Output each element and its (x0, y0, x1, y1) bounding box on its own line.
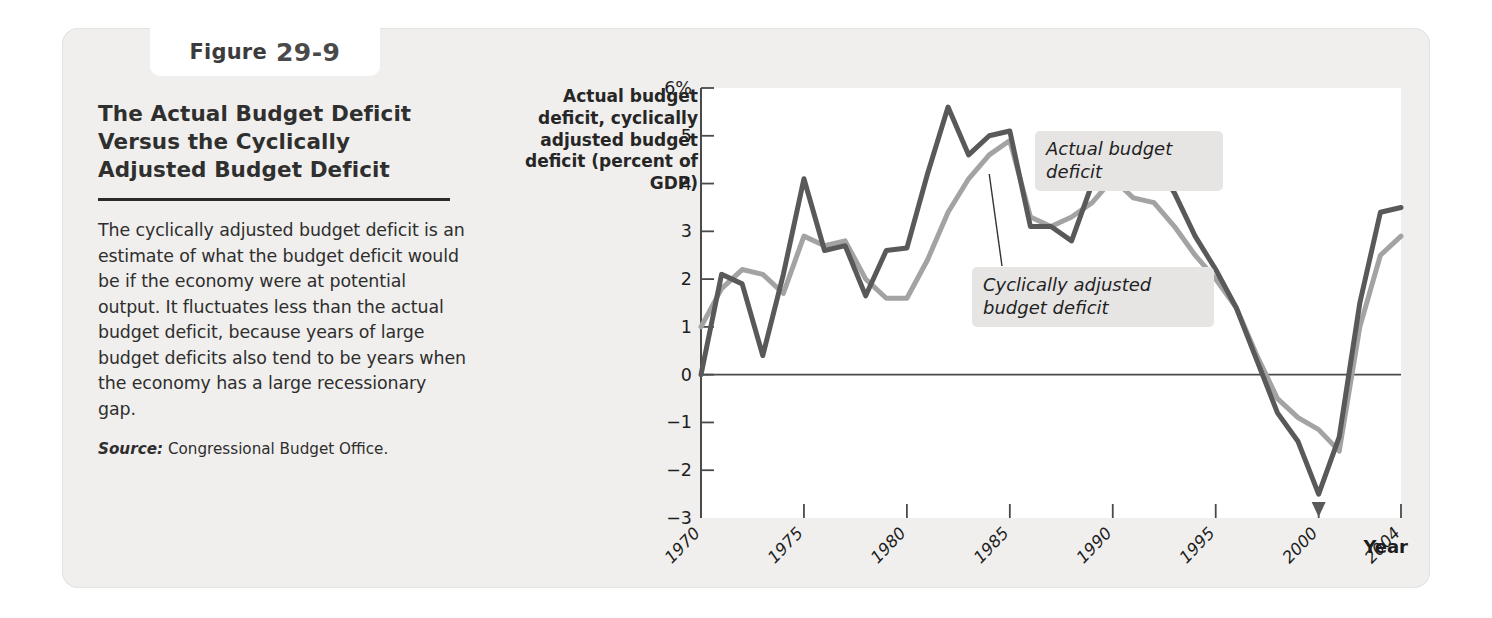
annotation-actual-budget-deficit: Actual budget deficit (1035, 131, 1223, 191)
figure-text-column: The Actual Budget Deficit Versus the Cyc… (98, 100, 466, 458)
chart-container: Actual budget deficit, cyclically adjust… (502, 28, 1430, 588)
y-tick-label: 2 (681, 269, 692, 289)
x-axis-label: Year (1363, 536, 1408, 557)
y-tick-label: 0 (681, 365, 692, 385)
x-tick-label: 2000 (1279, 524, 1322, 567)
source-text: Congressional Budget Office. (168, 440, 388, 458)
figure-card: Figure 29-9 The Actual Budget Deficit Ve… (62, 28, 1430, 588)
x-axis-ticks: 19701975198019851990199520002004 (661, 504, 1404, 567)
y-tick-label: −2 (666, 460, 692, 480)
x-tick-label: 1970 (661, 524, 704, 567)
figure-number: 29-9 (276, 38, 341, 67)
figure-title: The Actual Budget Deficit Versus the Cyc… (98, 100, 466, 184)
title-divider (98, 198, 450, 201)
source-label: Source: (98, 440, 163, 458)
y-tick-label: 5 (681, 126, 692, 146)
figure-caption: The cyclically adjusted budget deficit i… (98, 218, 466, 422)
axis-marker-2000 (1312, 502, 1326, 517)
x-tick-label: 1985 (970, 524, 1013, 567)
y-tick-label: −1 (666, 412, 692, 432)
y-tick-label: 3 (681, 221, 692, 241)
figure-source: Source: Congressional Budget Office. (98, 440, 466, 458)
y-tick-label: 1 (681, 317, 692, 337)
figure-label: Figure (190, 40, 267, 64)
x-tick-label: 1980 (867, 524, 910, 567)
annotation-cyclically-adjusted-budget-deficit: Cyclically adjusted budget deficit (972, 267, 1214, 327)
x-tick-label: 1995 (1176, 524, 1219, 567)
y-tick-label: 6% (664, 78, 692, 98)
leader-line-cyclical (989, 174, 1002, 266)
line-chart: 6%543210−1−2−3 1970197519801985199019952… (502, 28, 1430, 588)
x-tick-label: 1990 (1073, 524, 1116, 567)
y-tick-label: 4 (681, 174, 692, 194)
figure-number-tab: Figure 29-9 (150, 28, 380, 76)
x-tick-label: 1975 (764, 524, 807, 567)
y-axis-ticks: 6%543210−1−2−3 (664, 78, 714, 528)
